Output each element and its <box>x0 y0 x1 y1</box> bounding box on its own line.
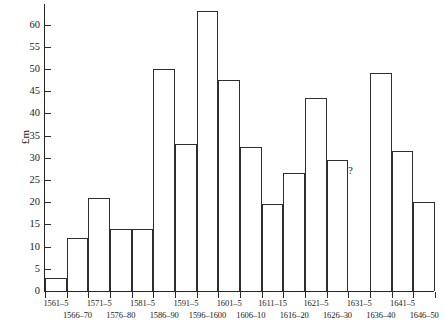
bar <box>392 151 414 291</box>
x-axis-line <box>44 291 434 292</box>
y-tick-label-text: 25 <box>16 175 40 185</box>
y-tick-label: 15 <box>14 219 40 229</box>
y-tick-label-text: 55 <box>16 42 40 52</box>
bar <box>175 144 197 291</box>
x-tick-label: 1566–70 <box>54 311 102 320</box>
bar <box>240 147 262 291</box>
y-tick-label: 30 <box>14 153 40 163</box>
y-tick-label: 40 <box>14 108 40 118</box>
x-tick-label: 1581–5 <box>119 299 167 308</box>
y-tick-label-text: 40 <box>16 108 40 118</box>
bar <box>262 204 284 291</box>
y-tick-label-text: 50 <box>16 64 40 74</box>
y-tick-label-text: 20 <box>16 197 40 207</box>
x-tick-label: 1616–20 <box>270 311 318 320</box>
y-tick-label-text: 30 <box>16 153 40 163</box>
x-tick-label: 1596–1600 <box>184 311 232 320</box>
bar <box>413 202 435 291</box>
bar <box>305 98 327 291</box>
bar <box>370 73 392 291</box>
bar <box>110 229 132 291</box>
bar <box>132 229 154 291</box>
y-tick-label: 0 <box>14 286 40 296</box>
y-tick-label: 10 <box>14 242 40 252</box>
x-tick-mark <box>435 292 436 298</box>
x-tick-label: 1606–10 <box>227 311 275 320</box>
x-tick-label: 1571–5 <box>75 299 123 308</box>
y-tick-label: 50 <box>14 64 40 74</box>
y-tick-label-text: 45 <box>16 86 40 96</box>
bar <box>283 173 305 291</box>
missing-data-question-mark: ? <box>348 165 353 176</box>
x-tick-label: 1636–40 <box>357 311 405 320</box>
x-tick-label: 1646–50 <box>400 311 444 320</box>
plot-area <box>45 0 439 291</box>
x-tick-label: 1621–5 <box>292 299 340 308</box>
y-tick-label-text: 5 <box>16 264 40 274</box>
y-tick-label-text: 60 <box>16 20 40 30</box>
y-tick-label: 35 <box>14 131 40 141</box>
y-tick-label-text: 15 <box>16 219 40 229</box>
bar <box>218 80 240 291</box>
x-tick-label: 1591–5 <box>162 299 210 308</box>
x-tick-label: 1611–15 <box>249 299 297 308</box>
y-tick-label: 60 <box>14 20 40 30</box>
x-tick-label: 1626–30 <box>314 311 362 320</box>
x-tick-label: 1586–90 <box>140 311 188 320</box>
x-tick-label: 1576–80 <box>97 311 145 320</box>
x-tick-label: 1641–5 <box>379 299 427 308</box>
bar <box>327 160 349 291</box>
bar <box>67 238 89 291</box>
y-tick-label: 45 <box>14 86 40 96</box>
x-tick-label: 1561–5 <box>32 299 80 308</box>
bar <box>197 11 219 291</box>
y-tick-label: 25 <box>14 175 40 185</box>
y-tick-label-text: 35 <box>16 131 40 141</box>
y-tick-label: 55 <box>14 42 40 52</box>
y-tick-label-text: 0 <box>16 286 40 296</box>
bar <box>88 198 110 291</box>
bar <box>45 278 67 291</box>
y-tick-label: 5 <box>14 264 40 274</box>
y-tick-label-text: 10 <box>16 242 40 252</box>
x-tick-label: 1601–5 <box>205 299 253 308</box>
y-tick-label: 20 <box>14 197 40 207</box>
bar <box>153 69 175 291</box>
x-tick-label: 1631–5 <box>335 299 383 308</box>
